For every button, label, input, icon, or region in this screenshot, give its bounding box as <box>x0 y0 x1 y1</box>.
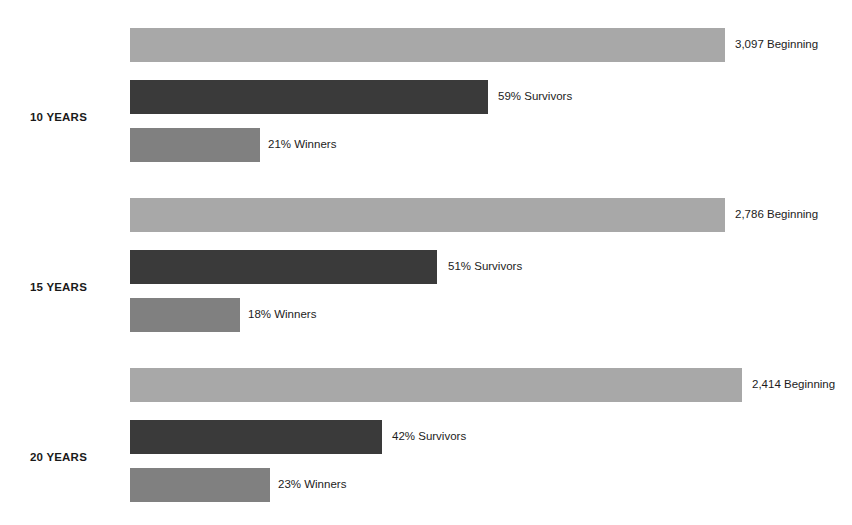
bar-row-winners-15-years: 18% Winners <box>0 298 852 332</box>
bar-label-winners-10-years: 21% Winners <box>268 128 336 162</box>
bar-row-winners-20-years: 23% Winners <box>0 468 852 502</box>
bar-winners-20-years <box>130 468 270 502</box>
bar-beginning-10-years <box>130 28 725 62</box>
bar-label-winners-15-years: 18% Winners <box>248 298 316 332</box>
bar-row-survivors-20-years: 42% Survivors <box>0 420 852 454</box>
bar-row-winners-10-years: 21% Winners <box>0 128 852 162</box>
bar-survivors-10-years <box>130 80 488 114</box>
bar-label-winners-20-years: 23% Winners <box>278 468 346 502</box>
bar-beginning-15-years <box>130 198 725 232</box>
bar-label-survivors-20-years: 42% Survivors <box>392 420 466 454</box>
bar-label-beginning-10-years: 3,097 Beginning <box>735 28 818 62</box>
bar-row-beginning-10-years: 3,097 Beginning <box>0 28 852 62</box>
bar-winners-10-years <box>130 128 260 162</box>
bar-survivors-20-years <box>130 420 382 454</box>
bar-row-survivors-10-years: 59% Survivors <box>0 80 852 114</box>
bar-label-survivors-10-years: 59% Survivors <box>498 80 572 114</box>
bar-row-beginning-15-years: 2,786 Beginning <box>0 198 852 232</box>
bar-label-survivors-15-years: 51% Survivors <box>448 250 522 284</box>
bar-winners-15-years <box>130 298 240 332</box>
bar-label-beginning-20-years: 2,414 Beginning <box>752 368 835 402</box>
bar-row-survivors-15-years: 51% Survivors <box>0 250 852 284</box>
bar-survivors-15-years <box>130 250 437 284</box>
grouped-bar-chart: 10 YEARS 3,097 Beginning 59% Survivors 2… <box>0 0 852 525</box>
bar-row-beginning-20-years: 2,414 Beginning <box>0 368 852 402</box>
bar-beginning-20-years <box>130 368 742 402</box>
bar-label-beginning-15-years: 2,786 Beginning <box>735 198 818 232</box>
